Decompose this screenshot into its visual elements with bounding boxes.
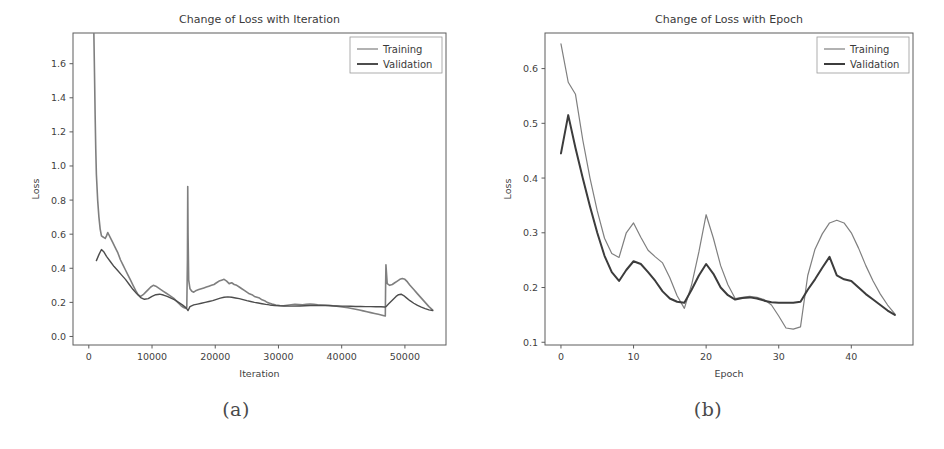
- y-tick-label: 0.1: [523, 337, 538, 348]
- subcaption-b: (b): [472, 398, 944, 420]
- x-tick-label: 20000: [200, 351, 230, 362]
- series-group: [561, 44, 895, 329]
- legend-label-validation: Validation: [383, 59, 432, 70]
- legend: TrainingValidation: [817, 37, 909, 73]
- chart-loss-epoch: Change of Loss with Epoch0102030400.10.2…: [472, 0, 944, 400]
- x-tick-label: 0: [558, 351, 564, 362]
- x-axis-title: Epoch: [714, 368, 743, 379]
- x-tick-label: 10: [628, 351, 640, 362]
- axes-frame: [545, 33, 913, 345]
- x-tick-label: 40: [845, 351, 857, 362]
- y-axis-title: Loss: [502, 179, 513, 200]
- y-tick-label: 1.0: [51, 160, 66, 171]
- x-tick-label: 20: [700, 351, 712, 362]
- y-tick-label: 1.6: [51, 58, 66, 69]
- legend-label-training: Training: [849, 44, 889, 55]
- series-group: [94, 33, 433, 316]
- y-tick-label: 0.6: [51, 229, 66, 240]
- chart-loss-iteration: Change of Loss with Iteration01000020000…: [0, 0, 472, 400]
- chart-a-svg: Change of Loss with Iteration01000020000…: [0, 0, 472, 400]
- subcaption-a: (a): [0, 398, 472, 420]
- y-tick-label: 0.6: [523, 63, 538, 74]
- x-tick-label: 30000: [263, 351, 293, 362]
- x-tick-label: 30: [773, 351, 785, 362]
- y-tick-label: 0.8: [51, 195, 66, 206]
- figure-row: Change of Loss with Iteration01000020000…: [0, 0, 944, 449]
- y-axis-title: Loss: [30, 179, 41, 200]
- y-tick-label: 0.4: [523, 173, 538, 184]
- x-tick-label: 50000: [390, 351, 420, 362]
- chart-title: Change of Loss with Iteration: [179, 13, 340, 26]
- y-tick-label: 1.2: [51, 126, 66, 137]
- legend-label-validation: Validation: [850, 59, 899, 70]
- chart-b-svg: Change of Loss with Epoch0102030400.10.2…: [472, 0, 944, 400]
- y-tick-label: 0.3: [523, 227, 538, 238]
- x-tick-label: 0: [86, 351, 92, 362]
- series-line-training: [94, 33, 433, 316]
- y-tick-label: 0.2: [523, 282, 538, 293]
- panel-b: Change of Loss with Epoch0102030400.10.2…: [472, 0, 944, 449]
- x-tick-label: 10000: [137, 351, 167, 362]
- y-tick-label: 1.4: [51, 92, 66, 103]
- y-tick-label: 0.5: [523, 118, 538, 129]
- y-tick-label: 0.0: [51, 331, 66, 342]
- y-tick-label: 0.2: [51, 297, 66, 308]
- legend-label-training: Training: [382, 44, 422, 55]
- chart-title: Change of Loss with Epoch: [655, 13, 803, 26]
- panel-a: Change of Loss with Iteration01000020000…: [0, 0, 472, 449]
- series-line-training: [561, 44, 895, 329]
- legend: TrainingValidation: [350, 37, 442, 73]
- y-tick-label: 0.4: [51, 263, 66, 274]
- x-tick-label: 40000: [327, 351, 357, 362]
- x-axis-title: Iteration: [239, 368, 279, 379]
